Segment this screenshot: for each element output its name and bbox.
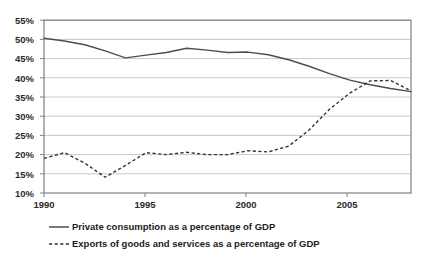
y-axis-label-7: 20% xyxy=(0,149,34,160)
legend-solid-line-icon xyxy=(48,222,70,232)
x-axis-label-2000: 2000 xyxy=(226,199,266,210)
y-axis-label-8: 15% xyxy=(0,169,34,180)
series-line-exports xyxy=(44,80,411,177)
y-axis-label-2: 45% xyxy=(0,53,34,64)
x-axis-label-2005: 2005 xyxy=(327,199,367,210)
legend-item-exports: Exports of goods and services as a perce… xyxy=(48,238,320,249)
y-axis-label-4: 35% xyxy=(0,92,34,103)
y-axis-label-3: 40% xyxy=(0,73,34,84)
legend-dashed-line-icon xyxy=(48,239,70,249)
y-axis-label-6: 25% xyxy=(0,130,34,141)
chart-container: 55% 50% 45% 40% 35% 30% 25% 20% 15% 10% … xyxy=(0,0,422,265)
plot-frame xyxy=(44,20,411,193)
legend-item-private-consumption: Private consumption as a percentage of G… xyxy=(48,221,275,232)
y-axis-label-5: 30% xyxy=(0,111,34,122)
gridlines xyxy=(44,20,411,174)
y-axis-label-1: 50% xyxy=(0,34,34,45)
y-axis-label-9: 10% xyxy=(0,188,34,199)
x-axis-label-1990: 1990 xyxy=(24,199,64,210)
series-line-private-consumption xyxy=(44,38,411,91)
legend-label-exports: Exports of goods and services as a perce… xyxy=(72,238,320,249)
legend-label-private-consumption: Private consumption as a percentage of G… xyxy=(72,221,275,232)
x-axis-label-1995: 1995 xyxy=(125,199,165,210)
y-axis-label-0: 55% xyxy=(0,15,34,26)
